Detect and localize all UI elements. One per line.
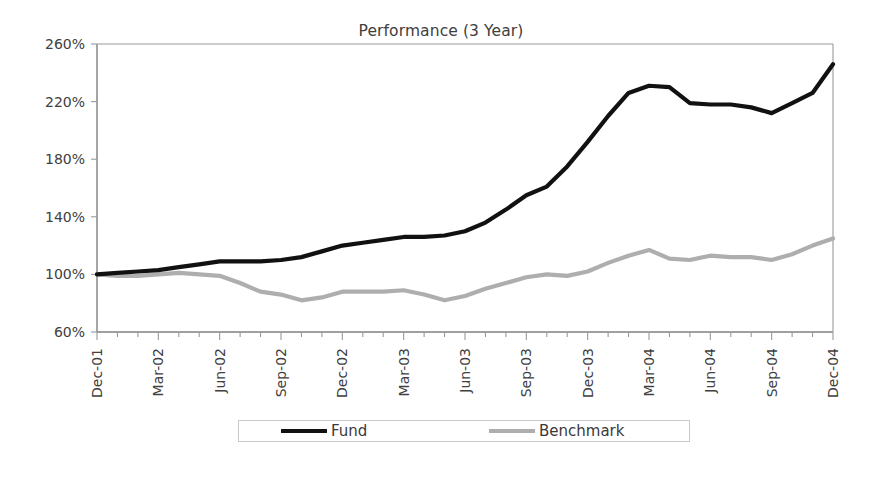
x-axis-tick-label: Sep-03	[518, 348, 534, 397]
y-axis-tick-label: 260%	[45, 36, 85, 52]
series-line-benchmark	[97, 238, 833, 300]
x-axis-tick-label: Sep-02	[273, 348, 289, 397]
y-axis-tick-label: 140%	[45, 209, 85, 225]
y-axis-tick-label: 180%	[45, 151, 85, 167]
x-axis-tick-label: Mar-04	[641, 348, 657, 396]
x-axis-tick-label: Mar-03	[396, 348, 412, 396]
legend-label-fund: Fund	[331, 424, 367, 439]
x-axis-tick-label: Dec-04	[825, 348, 841, 398]
legend-item-benchmark: Benchmark	[489, 421, 624, 441]
x-axis-tick-label: Sep-04	[764, 348, 780, 397]
legend-line-swatch-benchmark	[489, 429, 535, 433]
x-axis-tick-label: Dec-02	[334, 348, 350, 398]
legend-line-swatch-fund	[281, 429, 327, 433]
x-axis-ticks	[97, 332, 833, 340]
chart-plot-area: 60%100%140%180%220%260% Dec-01Mar-02Jun-…	[0, 0, 882, 477]
y-axis-tick-labels: 60%100%140%180%220%260%	[45, 36, 85, 340]
x-axis-tick-label: Jun-04	[702, 348, 718, 394]
chart-series-lines	[97, 64, 833, 300]
y-axis-tick-label: 60%	[54, 324, 85, 340]
y-axis-tick-label: 100%	[45, 266, 85, 282]
x-axis-tick-label: Dec-01	[89, 348, 105, 398]
y-axis-ticks	[91, 44, 97, 332]
performance-chart: Performance (3 Year) 60%100%140%180%220%…	[0, 0, 882, 477]
x-axis-tick-label: Mar-02	[150, 348, 166, 396]
x-axis-tick-labels: Dec-01Mar-02Jun-02Sep-02Dec-02Mar-03Jun-…	[89, 348, 841, 398]
chart-legend: Fund Benchmark	[238, 420, 690, 442]
x-axis-tick-label: Jun-03	[457, 348, 473, 394]
x-axis-tick-label: Jun-02	[212, 348, 228, 394]
chart-axes	[97, 44, 833, 332]
y-axis-tick-label: 220%	[45, 94, 85, 110]
series-line-fund	[97, 64, 833, 274]
legend-item-fund: Fund	[281, 421, 367, 441]
legend-label-benchmark: Benchmark	[539, 424, 624, 439]
x-axis-tick-label: Dec-03	[580, 348, 596, 398]
